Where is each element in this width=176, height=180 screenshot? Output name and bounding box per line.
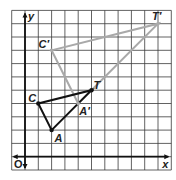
x-axis-label: x [161,158,169,170]
point-C [36,101,40,105]
coordinate-grid-diagram: xyO CATC′A′T′ [0,0,176,180]
label-A: A [54,132,63,144]
origin-label: O [14,158,23,170]
label-C: C [28,92,37,104]
label-T-prime: T′ [152,10,163,22]
point-A [49,128,53,132]
y-axis-arrow-down-icon [23,164,28,169]
point-C-prime [50,49,54,53]
label-C-prime: C′ [39,38,51,50]
y-axis-arrow-icon [23,12,28,17]
label-A-prime: A′ [78,105,91,117]
y-axis-label: y [27,10,35,22]
point-T-prime [156,22,160,26]
